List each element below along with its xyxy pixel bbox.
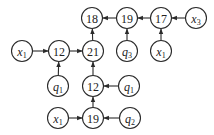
- node-label: 12: [87, 80, 99, 94]
- edges-layer: [33, 18, 186, 118]
- node-x1a: x1: [12, 41, 33, 62]
- node-q2: q2: [120, 108, 141, 129]
- node-q1a: q1: [48, 76, 69, 97]
- node-n21: 21: [83, 41, 104, 62]
- node-q1b: q1: [119, 76, 140, 97]
- node-n12a: 12: [49, 41, 70, 62]
- node-x1c: x1: [48, 108, 69, 129]
- diagram-canvas: 181917x3x11221q3x1q112q1x119q2: [0, 0, 214, 135]
- node-label: 12: [53, 45, 65, 59]
- node-label: 19: [87, 112, 99, 126]
- node-label: 17: [155, 12, 167, 26]
- nodes-layer: 181917x3x11221q3x1q112q1x119q2: [12, 8, 207, 129]
- node-label: 21: [87, 45, 99, 59]
- node-label: 19: [121, 12, 133, 26]
- node-n12b: 12: [83, 76, 104, 97]
- node-n17: 17: [151, 8, 172, 29]
- node-n18: 18: [82, 8, 103, 29]
- node-n19a: 19: [117, 8, 138, 29]
- node-label: 18: [86, 12, 98, 26]
- node-n19b: 19: [83, 108, 104, 129]
- node-x1b: x1: [151, 41, 172, 62]
- node-q3: q3: [117, 41, 138, 62]
- node-x3: x3: [186, 8, 207, 29]
